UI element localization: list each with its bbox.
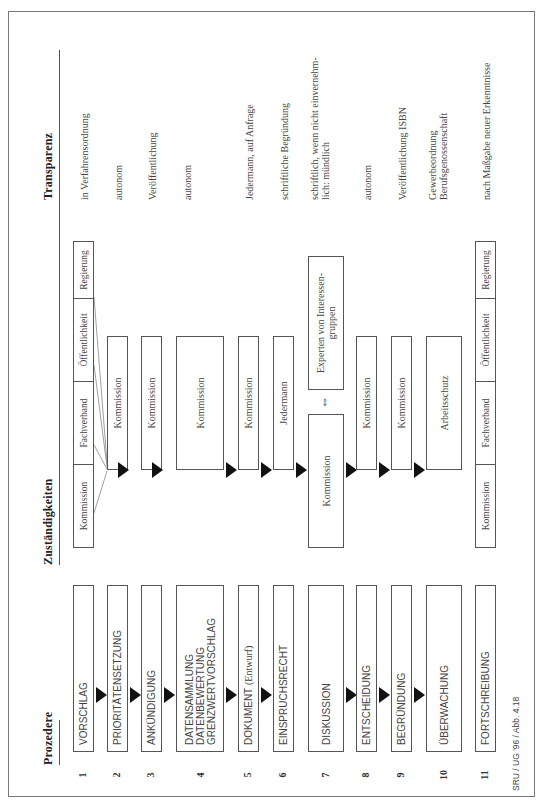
flow-arrow-icon xyxy=(261,462,272,478)
flow-arrow-icon xyxy=(414,462,425,478)
transparency-text: autonom xyxy=(113,165,124,200)
transparency-line: schriftlich, wenn nicht einvernehm- xyxy=(309,57,320,200)
responsible-box: Kommission xyxy=(356,336,377,470)
transparency-line: Gewerbeordnung xyxy=(427,113,438,200)
procedure-step: ENTSCHEIDUNG xyxy=(356,585,377,752)
responsible-box: Arbeitsschutz xyxy=(426,336,462,470)
flow-arrow-icon xyxy=(379,462,390,478)
transparency-text: schriftliche Begründung xyxy=(279,103,290,200)
responsible-box: Kommission xyxy=(107,336,128,470)
figure-source-caption: SRU / UG '96 / Abb. 4.18 xyxy=(511,697,521,791)
flow-arrow-icon xyxy=(226,687,237,703)
transparency-text: autonom xyxy=(362,165,373,200)
step-label: DOKUMENT xyxy=(243,688,254,745)
procedure-step: DISKUSSION xyxy=(308,585,344,752)
flow-arrow-icon xyxy=(296,462,307,478)
flow-arrow-icon xyxy=(118,462,129,478)
responsible-box: Kommission xyxy=(141,336,162,470)
transparency-text: Veröffentlichung ISBN xyxy=(397,107,408,200)
step-line: DATENBEWERTUNG xyxy=(195,647,206,745)
row-number: 8 xyxy=(360,767,371,783)
responsible-box-right: Experten von Interessen-gruppen xyxy=(308,256,344,390)
step-line: GRENZWERTVORSCHLAG xyxy=(206,618,217,745)
transparency-line: Berufsgenossenschaft xyxy=(438,113,449,200)
procedure-step: EINSPRUCHSRECHT xyxy=(273,585,294,752)
responsible-box: Kommission xyxy=(238,336,259,470)
flow-arrow-icon xyxy=(130,687,141,703)
transparency-text-multiline: Gewerbeordnung Berufsgenossenschaft xyxy=(427,113,449,200)
responsible-box-left: Kommission xyxy=(308,414,344,548)
row-number: 7 xyxy=(320,767,331,783)
step-suffix: (Entwurf) xyxy=(243,646,254,685)
procedure-step: ANKÜNDIGUNG xyxy=(141,585,162,752)
procedure-step-multiline: DATENSAMMLUNG DATENBEWERTUNG GRENZWERTVO… xyxy=(176,585,224,752)
flow-arrow-icon xyxy=(414,687,425,703)
transparency-text: autonom xyxy=(182,165,193,200)
transparency-line: lich: mündlich xyxy=(320,57,331,200)
procedure-step: FORTSCHREIBUNG xyxy=(475,585,496,752)
procedure-step: ÜBERWACHUNG xyxy=(426,585,462,752)
stakeholder-strip-top: Kommission Fachverband Öffentlichkeit Re… xyxy=(73,241,94,548)
flow-arrow-icon xyxy=(226,462,237,478)
transparency-text: nach Maßgabe neuer Erkenntnisse xyxy=(481,63,492,200)
row-number: 9 xyxy=(395,767,406,783)
row-number: 11 xyxy=(479,767,490,783)
stakeholder-regierung: Regierung xyxy=(475,241,496,299)
exchange-arrows-icon: ⇔ xyxy=(316,396,332,409)
flow-arrow-icon xyxy=(261,687,272,703)
responsible-box: Kommission xyxy=(176,336,224,470)
transparency-text: in Verfahrensordnung xyxy=(79,113,90,200)
flow-arrow-icon xyxy=(379,687,390,703)
stakeholder-oeffentlichkeit: Öffentlichkeit xyxy=(475,298,496,382)
procedure-step: BEGRÜNDUNG xyxy=(391,585,412,752)
flow-arrow-icon xyxy=(152,462,163,478)
responsible-box: Jedermann xyxy=(273,336,294,470)
transparency-text-multiline: schriftlich, wenn nicht einvernehm- lich… xyxy=(309,57,331,200)
procedure-step: DOKUMENT (Entwurf) xyxy=(238,585,259,752)
responsible-box: Kommission xyxy=(391,336,412,470)
transparency-text: Veröffentlichung xyxy=(147,132,158,200)
stakeholder-oeffentlichkeit: Öffentlichkeit xyxy=(73,298,94,382)
stakeholder-regierung: Regierung xyxy=(73,241,94,299)
diagram-canvas: Prozedere Zuständigkeiten Transparenz Ko… xyxy=(0,0,552,803)
stakeholder-kommission: Kommission xyxy=(475,464,496,548)
row-number: 2 xyxy=(111,767,122,783)
stakeholder-fachverband: Fachverband xyxy=(73,381,94,465)
procedure-step: VORSCHLAG xyxy=(73,585,94,752)
row-number: 6 xyxy=(277,767,288,783)
row-number: 1 xyxy=(77,767,88,783)
row-number: 10 xyxy=(438,767,449,783)
row-number: 4 xyxy=(195,767,206,783)
stakeholder-kommission: Kommission xyxy=(73,464,94,548)
step-line: DATENSAMMLUNG xyxy=(184,654,195,745)
transparency-text: Jedermann, auf Anfrage xyxy=(244,104,255,200)
stakeholder-strip-bottom: Kommission Fachverband Öffentlichkeit Re… xyxy=(475,241,496,548)
row-number: 3 xyxy=(145,767,156,783)
flow-arrow-icon xyxy=(96,687,107,703)
row-number: 5 xyxy=(242,767,253,783)
flow-arrow-icon xyxy=(164,687,175,703)
procedure-step: PRIORITÄTENSETZUNG xyxy=(107,585,128,752)
stakeholder-fachverband: Fachverband xyxy=(475,381,496,465)
